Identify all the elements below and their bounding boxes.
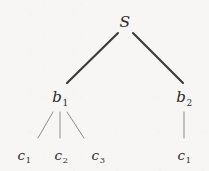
tree-leaf-c3: c3 bbox=[92, 147, 105, 163]
node-subscript: 3 bbox=[100, 155, 105, 165]
tree-leaf-c2: c2 bbox=[55, 147, 68, 163]
edge-s-b2 bbox=[133, 33, 183, 83]
node-subscript: 1 bbox=[62, 98, 68, 108]
tree-leaf-c1b: c1 bbox=[178, 147, 191, 163]
edge-b1-c3 bbox=[67, 112, 84, 138]
tree-node-b2: b2 bbox=[176, 89, 192, 105]
edge-b1-c1 bbox=[38, 112, 53, 138]
tree-node-b1: b1 bbox=[52, 89, 68, 105]
parse-tree-figure: Sb1b2c1c2c3c1 bbox=[0, 0, 209, 171]
node-base: c bbox=[92, 147, 100, 163]
node-subscript: 2 bbox=[63, 155, 68, 165]
node-base: S bbox=[120, 13, 131, 31]
node-base: c bbox=[55, 147, 63, 163]
node-subscript: 1 bbox=[26, 155, 31, 165]
edge-s-b1 bbox=[67, 33, 118, 83]
node-base: b bbox=[52, 88, 62, 106]
node-base: b bbox=[176, 88, 186, 106]
node-base: c bbox=[18, 147, 26, 163]
tree-edges bbox=[0, 0, 209, 171]
node-base: c bbox=[178, 147, 186, 163]
tree-node-S: S bbox=[120, 14, 131, 31]
edge-layer bbox=[38, 33, 184, 138]
node-subscript: 2 bbox=[186, 98, 192, 108]
tree-leaf-c1a: c1 bbox=[18, 147, 31, 163]
node-subscript: 1 bbox=[186, 155, 191, 165]
